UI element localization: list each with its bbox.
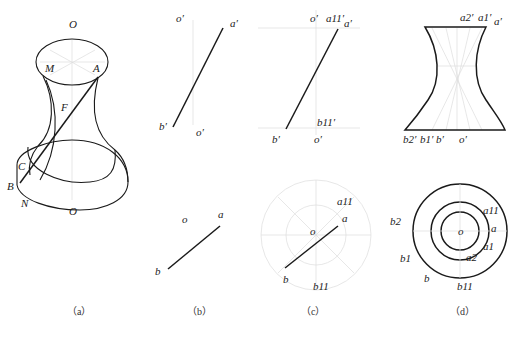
- panel-a-isometric-view: O M A F C B N O: [7, 18, 128, 217]
- label-b: b: [155, 265, 161, 277]
- label-B: B: [7, 180, 14, 192]
- label-b11: b11: [313, 280, 329, 292]
- label-a11-prime: a11′: [326, 12, 345, 24]
- generator-MN: [40, 80, 55, 180]
- panel-b-projections: o′ a′ b′ o′ o a b （b）: [155, 12, 239, 317]
- label-a: a: [491, 222, 497, 234]
- label-b: b: [424, 272, 430, 284]
- label-a1: a1: [483, 240, 494, 252]
- label-b: b: [283, 273, 289, 285]
- label-o-prime: o′: [459, 133, 468, 145]
- label-F: F: [60, 101, 68, 113]
- label-a: a: [218, 208, 224, 220]
- panel-d-result: a2′ a1′ a′ b2′ b1′ b′ o′ a11 a a1 a2 o b…: [390, 11, 507, 317]
- label-O-top: O: [69, 18, 77, 30]
- label-M: M: [44, 62, 55, 74]
- label-a11: a11: [483, 204, 499, 216]
- label-b11-prime: b11′: [317, 116, 336, 128]
- label-b11: b11: [457, 280, 473, 292]
- label-a2-prime: a2′: [460, 11, 474, 23]
- label-b2: b2: [390, 215, 402, 227]
- hyperboloid-front-view: [405, 27, 505, 130]
- line-a-prime-b-prime: [286, 29, 338, 129]
- label-o-prime-bottom: o′: [196, 126, 205, 138]
- label-o-prime-top: o′: [176, 12, 185, 24]
- label-a-prime: a′: [230, 17, 239, 29]
- line-a-prime-b-prime: [173, 28, 223, 127]
- label-a-prime: a′: [344, 17, 353, 29]
- label-b-prime: b′: [159, 120, 168, 132]
- label-N: N: [20, 197, 29, 209]
- caption-c: （c）: [301, 306, 325, 317]
- label-b2-prime: b2′: [403, 133, 417, 145]
- label-o: o: [458, 225, 464, 237]
- label-a-prime: a′: [494, 15, 503, 27]
- label-b1-prime: b1′: [420, 133, 434, 145]
- label-b1: b1: [400, 252, 411, 264]
- line-ab: [168, 226, 220, 269]
- caption-b: （b）: [187, 306, 212, 317]
- hyperboloid-diagram: O M A F C B N O o′ a′ b′ o′ o a b （b）: [0, 0, 510, 343]
- label-o: o: [182, 213, 188, 225]
- label-b-prime: b′: [272, 133, 281, 145]
- caption-d: （d）: [450, 306, 475, 317]
- label-a1-prime: a1′: [478, 11, 492, 23]
- label-O-bottom: O: [69, 205, 77, 217]
- inner-arc: [28, 147, 116, 182]
- label-C: C: [18, 160, 26, 172]
- label-A: A: [92, 62, 100, 74]
- label-o-prime-top: o′: [310, 12, 319, 24]
- caption-a: （a）: [67, 306, 91, 317]
- label-a: a: [342, 212, 348, 224]
- label-a11: a11: [337, 195, 353, 207]
- label-o: o: [310, 225, 316, 237]
- bottom-circle: [17, 140, 128, 210]
- label-a2: a2: [466, 251, 478, 263]
- right-profile: [94, 78, 128, 182]
- label-b-prime: b′: [436, 133, 445, 145]
- label-o-prime-bottom: o′: [314, 133, 323, 145]
- panel-c-rotation: o′ a11′ a′ b11′ b′ o′ a11 a o b b11 （c）: [258, 10, 371, 317]
- line-AB: [20, 77, 98, 183]
- left-profile: [29, 76, 51, 175]
